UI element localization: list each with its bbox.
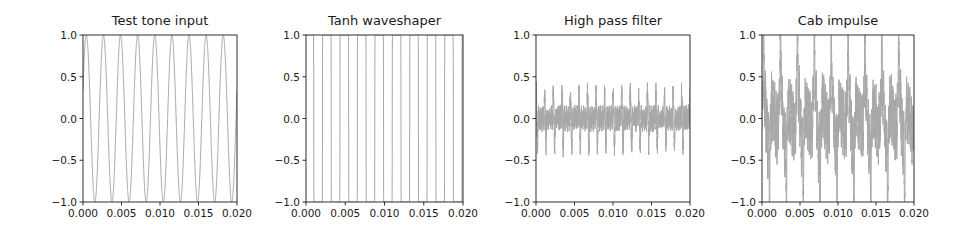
y-tick-label: −0.5: [731, 154, 757, 166]
y-tick-label: 0.0: [739, 113, 756, 125]
x-tick-label: 0.020: [899, 207, 929, 219]
waveform-line: [762, 35, 914, 202]
x-tick-label: 0.005: [785, 207, 815, 219]
plot-area: 1.00.50.0−0.5−1.00.0000.0050.0100.0150.0…: [0, 0, 973, 231]
y-tick-label: 1.0: [739, 29, 756, 41]
x-tick-label: 0.000: [747, 207, 777, 219]
y-tick-label: 0.5: [739, 71, 756, 83]
x-tick-label: 0.010: [823, 207, 853, 219]
x-tick-label: 0.015: [861, 207, 891, 219]
